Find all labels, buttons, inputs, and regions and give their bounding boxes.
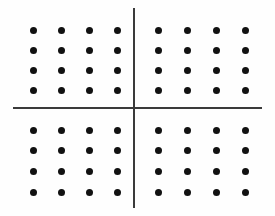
dot-grid-figure [0, 0, 275, 216]
dot-bottom-right-r1-c3 [213, 127, 220, 134]
dot-bottom-right-r3-c4 [242, 168, 249, 175]
dot-bottom-right-r1-c1 [155, 127, 162, 134]
dot-bottom-right-r4-c1 [155, 189, 162, 196]
dot-bottom-right-r4-c2 [184, 189, 191, 196]
horizontal-axis [13, 107, 262, 109]
dot-bottom-right-r4-c3 [213, 189, 220, 196]
dot-bottom-right-r2-c3 [213, 147, 220, 154]
dot-bottom-right-r4-c4 [242, 189, 249, 196]
dot-bottom-right-r3-c3 [213, 168, 220, 175]
dot-bottom-right-r2-c2 [184, 147, 191, 154]
dot-bottom-right-r3-c2 [184, 168, 191, 175]
dot-bottom-right-r3-c1 [155, 168, 162, 175]
dot-bottom-right-r1-c4 [242, 127, 249, 134]
dot-bottom-right-r2-c4 [242, 147, 249, 154]
dot-bottom-right-r1-c2 [184, 127, 191, 134]
dot-bottom-right-r2-c1 [155, 147, 162, 154]
